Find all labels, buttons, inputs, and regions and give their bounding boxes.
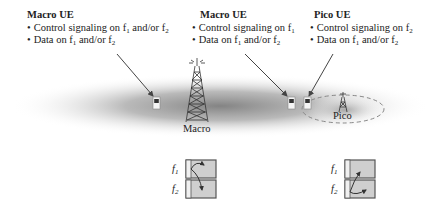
macro-ue-left-label: Macro UE Control signaling on f1 and/or … — [27, 9, 169, 47]
label-bullet: Control signaling on f1 — [192, 22, 295, 35]
macro-ue-center-label: Macro UE Control signaling on f1 Data on… — [192, 9, 295, 47]
label-bullet: Data on f1 and/or f2 — [27, 34, 169, 47]
label-bullet: Data on f1 and/or f2 — [310, 34, 413, 47]
pico-carrier-diagram — [345, 160, 375, 198]
phone-icon — [304, 97, 311, 109]
pico-f1-label: f1 — [331, 163, 337, 174]
pico-ue-label: Pico UE Control signaling on f2 Data on … — [310, 9, 413, 47]
label-title: Macro UE — [27, 9, 169, 22]
pico-f2-label: f2 — [331, 183, 337, 194]
phone-icon — [153, 97, 160, 109]
label-bullet: Control signaling on f1 and/or f2 — [27, 22, 169, 35]
label-bullet: Data on f1 and/or f2 — [192, 34, 295, 47]
label-title: Pico UE — [310, 9, 413, 22]
macro-carrier-diagram — [186, 160, 216, 198]
macro-f1-label: f1 — [172, 163, 178, 174]
label-bullet: Control signaling on f2 — [310, 22, 413, 35]
macro-f2-label: f2 — [172, 183, 178, 194]
macro-tower-label: Macro — [183, 123, 210, 134]
label-title: Macro UE — [192, 9, 295, 22]
pico-tower-label: Pico — [333, 110, 352, 121]
phone-icon — [288, 97, 295, 109]
